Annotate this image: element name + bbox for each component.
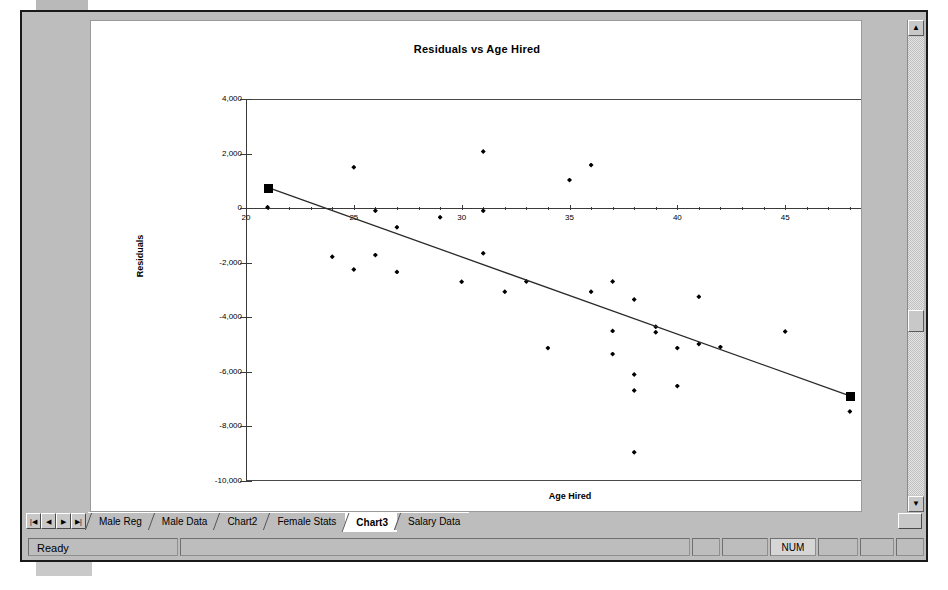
worksheet-gutter-right <box>862 20 906 512</box>
status-box-1 <box>692 538 720 556</box>
scrollbar-thumb[interactable] <box>908 310 924 332</box>
selection-handle[interactable] <box>264 184 273 193</box>
status-bar: Ready NUM <box>24 536 924 558</box>
scrollbar-track[interactable] <box>908 37 924 495</box>
sheet-tab-male-data[interactable]: Male Data <box>151 512 217 530</box>
sheet-tab-chart2[interactable]: Chart2 <box>216 512 266 530</box>
scanned-page-text <box>42 578 742 590</box>
value-axis-tick-mark <box>240 208 252 209</box>
value-axis-tick-mark <box>240 426 252 427</box>
spreadsheet-window: Residuals vs Age Hired 4,0002,0000-2,000… <box>20 10 928 562</box>
vertical-scrollbar[interactable]: ▲ ▼ <box>907 20 924 512</box>
sheet-tab-female-stats[interactable]: Female Stats <box>266 512 345 530</box>
value-axis-title: Residuals <box>135 201 145 311</box>
category-axis-title: Age Hired <box>246 491 862 501</box>
worksheet-gutter-left <box>24 20 90 512</box>
worksheet-canvas[interactable]: Residuals vs Age Hired 4,0002,0000-2,000… <box>90 20 862 512</box>
status-num-indicator: NUM <box>770 538 816 556</box>
tab-prev-icon[interactable]: ◀ <box>41 513 56 529</box>
value-axis-tick-mark <box>240 154 252 155</box>
sheet-tab-navigation[interactable]: |◀ ◀ ▶ ▶| <box>26 513 86 529</box>
scroll-down-icon[interactable]: ▼ <box>908 496 924 512</box>
value-axis-tick-mark <box>240 317 252 318</box>
tab-last-icon[interactable]: ▶| <box>71 513 86 529</box>
sheet-tab-salary-data[interactable]: Salary Data <box>397 512 469 530</box>
horizontal-scrollbar-thumb[interactable] <box>898 513 922 529</box>
sheet-tabs: Male RegMale DataChart2Female StatsChart… <box>88 512 469 532</box>
status-box-6 <box>896 538 924 556</box>
value-axis-tick-mark <box>240 372 252 373</box>
value-axis-tick-mark <box>240 481 252 482</box>
value-axis-tick-mark <box>240 263 252 264</box>
status-box-4 <box>818 538 858 556</box>
tab-next-icon[interactable]: ▶ <box>56 513 71 529</box>
tab-first-icon[interactable]: |◀ <box>26 513 41 529</box>
trendline-svg <box>91 21 862 512</box>
value-axis-tick-mark <box>240 99 252 100</box>
selection-handle[interactable] <box>846 392 855 401</box>
status-filler <box>180 538 690 556</box>
sheet-tab-male-reg[interactable]: Male Reg <box>88 512 151 530</box>
sheet-tab-bar: |◀ ◀ ▶ ▶| Male RegMale DataChart2Female … <box>24 512 924 532</box>
status-message: Ready <box>28 538 178 556</box>
status-box-2 <box>722 538 768 556</box>
sheet-tab-chart3[interactable]: Chart3 <box>345 512 397 532</box>
tab-split-handle[interactable] <box>898 513 922 529</box>
chart-object[interactable]: Residuals vs Age Hired 4,0002,0000-2,000… <box>91 21 862 512</box>
scroll-up-icon[interactable]: ▲ <box>908 20 924 36</box>
status-box-5 <box>860 538 894 556</box>
